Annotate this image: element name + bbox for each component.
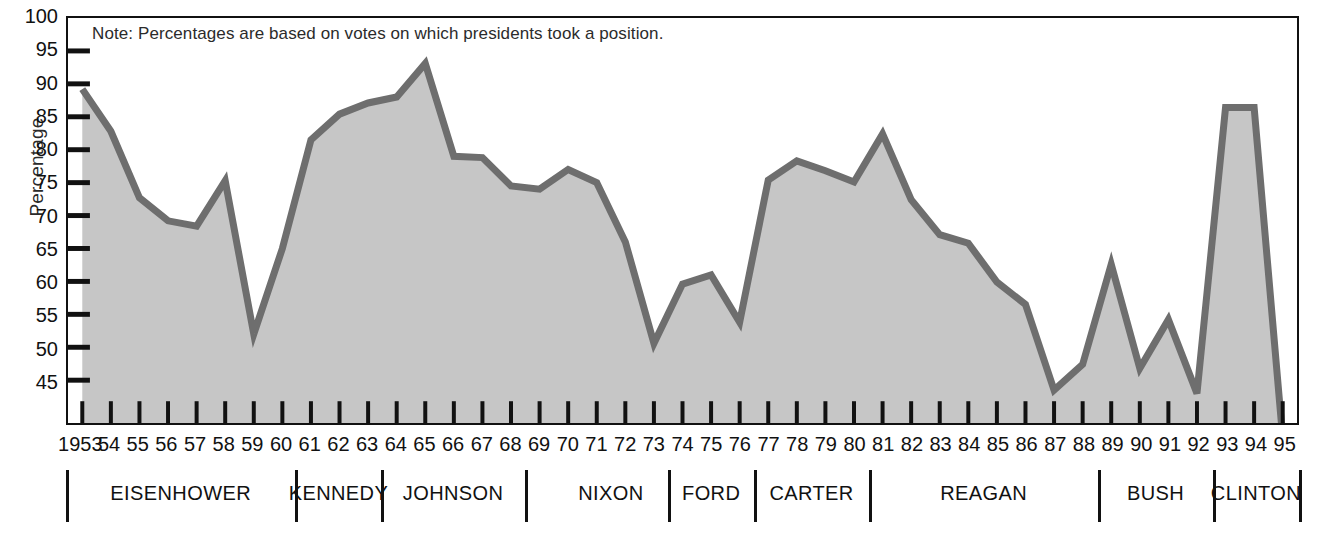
y-axis-tick-labels: 1009590858075706560555045 (14, 0, 58, 440)
president-label-nixon: NIXON (578, 482, 643, 505)
area-chart-svg (68, 18, 1297, 423)
x-tick-label: 79 (815, 434, 837, 454)
y-tick-label: 95 (16, 39, 58, 59)
y-tick-label: 60 (16, 272, 58, 292)
president-divider (869, 470, 872, 522)
president-divider (1299, 470, 1302, 522)
x-tick-label: 70 (557, 434, 579, 454)
x-tick-label: 91 (1159, 434, 1181, 454)
president-label-kennedy: KENNEDY (289, 482, 389, 505)
area-fill (82, 63, 1282, 423)
y-tick-label: 100 (16, 6, 58, 26)
x-tick-label: 90 (1130, 434, 1152, 454)
x-tick-label: 85 (987, 434, 1009, 454)
x-tick-label: 81 (872, 434, 894, 454)
x-tick-label: 89 (1101, 434, 1123, 454)
x-tick-label: 88 (1073, 434, 1095, 454)
president-band: EISENHOWERKENNEDYJOHNSONNIXONFORDCARTERR… (0, 470, 1327, 528)
x-tick-label: 75 (700, 434, 722, 454)
x-tick-label: 72 (614, 434, 636, 454)
x-tick-label: 60 (270, 434, 292, 454)
president-label-clinton: CLINTON (1211, 482, 1301, 505)
president-label-johnson: JOHNSON (403, 482, 504, 505)
y-tick-label: 70 (16, 206, 58, 226)
x-tick-label: 80 (843, 434, 865, 454)
president-label-ford: FORD (682, 482, 740, 505)
x-tick-label: 74 (671, 434, 693, 454)
x-tick-label: 58 (213, 434, 235, 454)
y-tick-label: 65 (16, 239, 58, 259)
x-tick-label: 78 (786, 434, 808, 454)
x-tick-label: 61 (299, 434, 321, 454)
y-tick-label: 75 (16, 172, 58, 192)
x-tick-label: 67 (471, 434, 493, 454)
x-tick-label: 95 (1274, 434, 1296, 454)
y-tick-label: 85 (16, 106, 58, 126)
x-tick-label: 62 (327, 434, 349, 454)
president-divider (1098, 470, 1101, 522)
x-tick-label: 82 (901, 434, 923, 454)
x-tick-label: 69 (528, 434, 550, 454)
president-label-carter: CARTER (769, 482, 853, 505)
x-tick-label: 64 (385, 434, 407, 454)
y-tick-label: 55 (16, 305, 58, 325)
president-label-eisenhower: EISENHOWER (110, 482, 251, 505)
president-divider (525, 470, 528, 522)
x-tick-label: 68 (499, 434, 521, 454)
y-tick-label: 90 (16, 73, 58, 93)
x-tick-label: 94 (1245, 434, 1267, 454)
x-tick-label: 55 (127, 434, 149, 454)
president-label-reagan: REAGAN (940, 482, 1027, 505)
y-tick-label: 80 (16, 139, 58, 159)
plot-area: Note: Percentages are based on votes on … (66, 16, 1299, 425)
x-tick-label: 1953 (58, 434, 103, 454)
president-divider (754, 470, 757, 522)
x-tick-label: 86 (1015, 434, 1037, 454)
x-tick-label: 59 (241, 434, 263, 454)
president-divider (66, 470, 69, 522)
x-tick-label: 84 (958, 434, 980, 454)
x-tick-label: 93 (1216, 434, 1238, 454)
x-tick-label: 83 (929, 434, 951, 454)
x-axis-tick-labels: 1953545556575859606162636465666768697071… (0, 434, 1327, 462)
x-tick-label: 73 (643, 434, 665, 454)
y-tick-label: 45 (16, 372, 58, 392)
president-divider (668, 470, 671, 522)
president-divider (381, 470, 384, 522)
president-label-bush: BUSH (1127, 482, 1184, 505)
x-tick-label: 87 (1044, 434, 1066, 454)
x-tick-label: 66 (442, 434, 464, 454)
x-tick-label: 57 (184, 434, 206, 454)
chart-note: Note: Percentages are based on votes on … (92, 24, 663, 44)
chart-root: Percentage 1009590858075706560555045 Not… (0, 0, 1327, 542)
x-tick-label: 63 (356, 434, 378, 454)
x-tick-label: 77 (757, 434, 779, 454)
x-tick-label: 71 (585, 434, 607, 454)
x-tick-label: 65 (413, 434, 435, 454)
x-tick-label: 54 (98, 434, 120, 454)
y-tick-label: 50 (16, 339, 58, 359)
x-tick-label: 76 (729, 434, 751, 454)
x-tick-label: 92 (1188, 434, 1210, 454)
x-tick-label: 56 (155, 434, 177, 454)
